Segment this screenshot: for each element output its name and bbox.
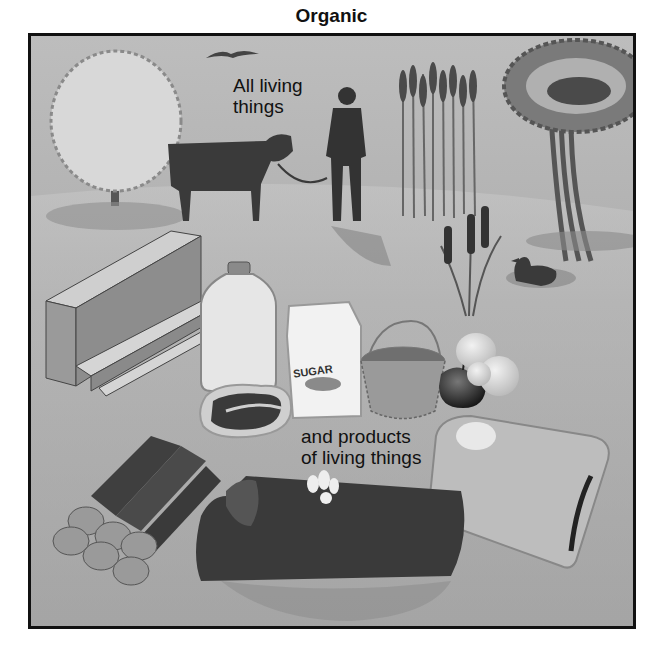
illustration-frame: SUGAR: [28, 33, 636, 629]
products-label-line1: and products: [301, 426, 421, 447]
figure-title: Organic: [0, 5, 663, 27]
bird-icon: [206, 51, 259, 58]
steak-icon: [200, 385, 291, 438]
illustration-scene: SUGAR: [31, 36, 633, 626]
living-things-label: All living things: [233, 75, 303, 117]
products-label-line2: of living things: [301, 447, 421, 468]
living-things-label-line2: things: [233, 96, 303, 117]
living-things-label-line1: All living: [233, 75, 303, 96]
products-label: and products of living things: [301, 426, 421, 468]
sugar-bag-icon: SUGAR: [287, 302, 361, 418]
